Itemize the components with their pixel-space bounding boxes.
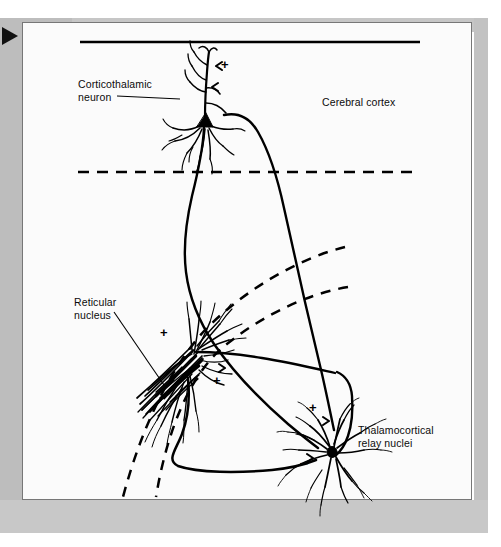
sign-relay-afferent-excitatory: + [309,401,317,414]
sign-relay-inhibitory: – [300,456,308,469]
leader-reticular [114,312,166,388]
sign-reticular-left-excitatory: + [160,326,168,339]
figure-root: Corticothalamic neuron Cerebral cortex R… [0,0,501,547]
sign-cortical-apical-excitatory: + [221,58,229,71]
leader-corticothalamic [117,96,180,99]
sign-reticular-lower-excitatory: + [213,374,221,387]
label-leader-lines [0,0,501,547]
